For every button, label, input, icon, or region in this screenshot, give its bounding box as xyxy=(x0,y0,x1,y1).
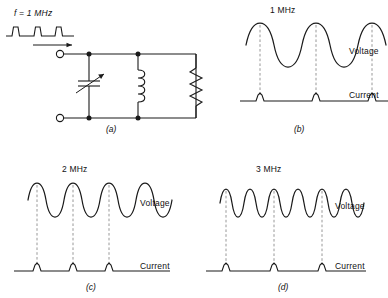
panel-c-2mhz: 2 MHz Voltage Current (c) xyxy=(6,158,192,298)
circuit-svg xyxy=(0,0,230,140)
panel-d-frequency-label: 3 MHz xyxy=(256,164,282,174)
figure-root: f = 1 MHz xyxy=(0,0,388,298)
panel-b-waveform-svg xyxy=(232,0,388,142)
inductor xyxy=(138,54,145,118)
panel-b-tag: (b) xyxy=(294,124,304,134)
panel-c-waveform-svg xyxy=(6,158,192,298)
input-pulse-train-icon xyxy=(6,27,74,36)
signal-flow-arrow-icon xyxy=(33,43,72,47)
panel-c-voltage-label: Voltage xyxy=(140,198,170,208)
panel-a-circuit: f = 1 MHz xyxy=(0,0,230,140)
panel-c-frequency-label: 2 MHz xyxy=(62,164,88,174)
panel-c-current-label: Current xyxy=(140,261,170,271)
input-terminal-bottom xyxy=(56,114,63,121)
panel-b-current-label: Current xyxy=(349,90,379,100)
panel-a-tag: (a) xyxy=(106,124,116,134)
panel-d-voltage-label: Voltage xyxy=(335,201,365,211)
panel-d-tag: (d) xyxy=(278,282,288,292)
input-terminal-top xyxy=(56,50,63,57)
panel-d-waveform-svg xyxy=(198,158,388,298)
panel-b-voltage-label: Voltage xyxy=(349,46,379,56)
source-frequency-label: f = 1 MHz xyxy=(14,8,52,18)
panel-d-current-label: Current xyxy=(335,261,365,271)
variable-capacitor xyxy=(76,54,104,118)
panel-c-tag: (c) xyxy=(86,282,96,292)
panel-b-frequency-label: 1 MHz xyxy=(270,5,296,15)
panel-d-3mhz: 3 MHz Voltage Current (d) xyxy=(198,158,388,298)
panel-b-1mhz: 1 MHz Voltage Current (b) xyxy=(232,0,388,142)
